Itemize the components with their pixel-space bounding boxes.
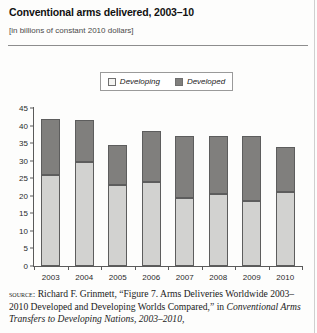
legend-swatch-developing (108, 78, 116, 86)
bar-segment-developed (108, 145, 127, 185)
x-axis-tick-label: 2007 (176, 273, 194, 282)
bar-segment-developed (41, 119, 60, 175)
x-axis-tick-label: 2009 (243, 273, 261, 282)
bar-segment-developing (75, 162, 94, 266)
bar-segment-developing (209, 194, 228, 266)
figure-container: Conventional arms delivered, 2003–10 [in… (0, 0, 317, 333)
y-axis-tick-label: 15 (19, 209, 28, 218)
y-axis-tick-label: 5 (24, 244, 28, 253)
x-axis-tick-mark (302, 266, 303, 270)
bar-column (108, 108, 127, 266)
bar-segment-developed (142, 131, 161, 182)
page-edge-rule (314, 0, 315, 333)
bar-segment-developing (175, 198, 194, 266)
plot-area: 0510152025303540452003200420052006200720… (34, 108, 302, 266)
x-axis-tick-label: 2005 (109, 273, 127, 282)
y-axis-tick-mark (30, 195, 34, 196)
bar-segment-developing (242, 201, 261, 266)
y-axis-tick-mark (30, 160, 34, 161)
bar-segment-developed (276, 147, 295, 193)
y-axis-tick-mark (30, 143, 34, 144)
bar-column (276, 108, 295, 266)
x-axis-tick-mark (34, 266, 35, 270)
x-axis-tick-mark (101, 266, 102, 270)
x-axis-tick-mark (202, 266, 203, 270)
legend-item-developing: Developing (108, 77, 160, 86)
x-axis-tick-mark (235, 266, 236, 270)
x-axis-tick-label: 2003 (42, 273, 60, 282)
title-divider (8, 45, 308, 46)
y-axis-tick-mark (30, 178, 34, 179)
bar-column (142, 108, 161, 266)
y-axis-tick-mark (30, 125, 34, 126)
y-axis-tick-label: 45 (19, 104, 28, 113)
y-axis-tick-label: 20 (19, 191, 28, 200)
x-axis-tick-label: 2004 (75, 273, 93, 282)
legend-label-developed: Developed (187, 77, 225, 86)
y-axis-tick-label: 35 (19, 139, 28, 148)
source-note: source: Richard F. Grinmett, “Figure 7. … (9, 288, 309, 326)
figure-title: Conventional arms delivered, 2003–10 (9, 6, 194, 18)
y-axis-tick-mark (30, 248, 34, 249)
y-axis-tick-label: 40 (19, 121, 28, 130)
x-axis-tick-mark (135, 266, 136, 270)
x-axis-tick-label: 2008 (209, 273, 227, 282)
y-axis-tick-mark (30, 213, 34, 214)
x-axis-tick-mark (168, 266, 169, 270)
legend-item-developed: Developed (175, 77, 225, 86)
x-axis-tick-label: 2010 (276, 273, 294, 282)
bar-segment-developing (41, 175, 60, 266)
y-axis-tick-label: 25 (19, 174, 28, 183)
figure-subtitle: [in billions of constant 2010 dollars] (9, 26, 134, 35)
bar-column (209, 108, 228, 266)
source-line-1: Richard F. Grinmett, “Figure 7. Arms Del… (35, 288, 268, 299)
bar-segment-developing (276, 192, 295, 266)
bar-segment-developed (75, 120, 94, 162)
bar-column (175, 108, 194, 266)
legend-swatch-developed (175, 78, 183, 86)
x-axis-tick-mark (68, 266, 69, 270)
y-axis-tick-label: 0 (24, 262, 28, 271)
source-label: source: (9, 289, 35, 299)
x-axis-tick-label: 2006 (142, 273, 160, 282)
bar-column (75, 108, 94, 266)
x-axis-tick-mark (269, 266, 270, 270)
bar-segment-developed (209, 136, 228, 194)
bar-column (41, 108, 60, 266)
legend-label-developing: Developing (120, 77, 160, 86)
bar-segment-developed (242, 136, 261, 201)
y-axis-tick-mark (30, 230, 34, 231)
y-axis-tick-label: 10 (19, 226, 28, 235)
bar-segment-developing (108, 185, 127, 266)
bar-column (242, 108, 261, 266)
bar-segment-developed (175, 136, 194, 197)
bar-segment-developing (142, 182, 161, 266)
y-axis-tick-mark (30, 108, 34, 109)
y-axis-tick-label: 30 (19, 156, 28, 165)
chart-legend: Developing Developed (100, 72, 233, 91)
